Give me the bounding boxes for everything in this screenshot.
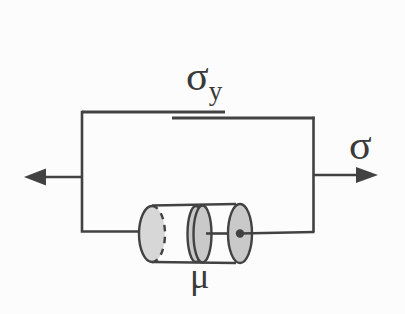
left-stress-arrow — [24, 169, 82, 186]
yield-stress-subscript: y — [209, 76, 223, 106]
viscosity-label: μ — [190, 256, 209, 296]
bingham-model-diagram: σy σ μ — [0, 0, 405, 314]
left-branch-wire — [82, 111, 140, 232]
right-stress-arrow — [313, 167, 378, 183]
cylinder-top-wall — [152, 204, 236, 206]
yield-stress-symbol: σ — [186, 53, 209, 99]
rod-pin — [236, 229, 244, 237]
yield-stress-label: σy — [186, 53, 223, 106]
left-arrow-head-icon — [24, 169, 46, 186]
diagram-stage: σy σ μ — [0, 0, 405, 314]
viscous-dashpot — [139, 204, 315, 263]
applied-stress-label: σ — [349, 122, 372, 168]
right-arrow-head-icon — [356, 167, 378, 183]
bottom-right-wire — [240, 232, 315, 234]
